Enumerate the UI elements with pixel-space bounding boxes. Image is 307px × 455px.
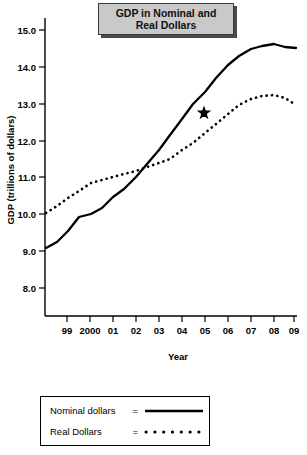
x-tick-label-03: 03 <box>154 325 165 336</box>
y-axis-title: GDP (trillions of dollars) <box>5 115 16 224</box>
y-tick-label-9: 9.0 <box>23 246 36 257</box>
x-tick-label-05: 05 <box>200 325 211 336</box>
crossing-point-star-icon <box>199 107 210 117</box>
legend-swatch-solid-line <box>144 406 204 416</box>
y-tick-label-10: 10.0 <box>18 209 37 220</box>
legend-swatch-dotted-line <box>144 427 204 437</box>
gdp-chart: GDP in Nominal andReal Dollars 15.0 14.0… <box>0 0 307 455</box>
x-tick-label-01: 01 <box>108 325 119 336</box>
x-tick-label-99: 99 <box>62 325 73 336</box>
x-tick-label-02: 02 <box>131 325 142 336</box>
x-tick-label-04: 04 <box>177 325 188 336</box>
y-tick-label-12: 12.0 <box>18 136 37 147</box>
y-tick-label-15: 15.0 <box>18 25 37 36</box>
series-nominal-dollars <box>46 44 296 248</box>
x-tick-label-09: 09 <box>289 325 300 336</box>
legend-label-real-dollars: Real Dollars <box>50 426 132 437</box>
x-axis-ticks: 99 2000 01 02 03 04 05 06 07 08 09 <box>62 316 300 336</box>
y-tick-label-14: 14.0 <box>18 62 37 73</box>
legend-equals-real: = <box>132 426 144 437</box>
x-tick-label-2000: 2000 <box>79 325 100 336</box>
y-tick-label-11: 11.0 <box>18 172 36 183</box>
legend-label-nominal-dollars: Nominal dollars <box>50 405 132 416</box>
y-axis-ticks: 15.0 14.0 13.0 12.0 11.0 10.0 9.0 8.0 <box>18 25 46 294</box>
x-tick-label-08: 08 <box>269 325 280 336</box>
legend-equals-nominal: = <box>132 405 144 416</box>
legend-item-nominal-dollars: Nominal dollars = <box>50 405 204 416</box>
series-real-dollars <box>46 95 296 213</box>
y-tick-label-8: 8.0 <box>23 283 36 294</box>
y-tick-label-13: 13.0 <box>18 99 37 110</box>
x-tick-label-07: 07 <box>246 325 257 336</box>
plot-area: 15.0 14.0 13.0 12.0 11.0 10.0 9.0 8.0 99… <box>0 0 307 395</box>
chart-legend: Nominal dollars = Real Dollars = <box>40 396 210 446</box>
x-tick-label-06: 06 <box>223 325 234 336</box>
x-axis-title: Year <box>168 351 188 362</box>
legend-item-real-dollars: Real Dollars = <box>50 426 204 437</box>
